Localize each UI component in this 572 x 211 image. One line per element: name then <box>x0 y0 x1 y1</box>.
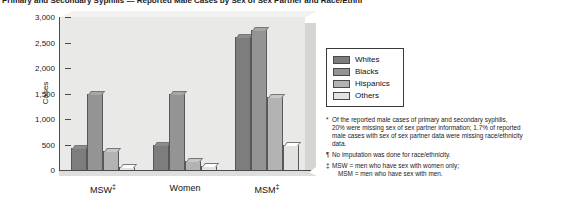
chart-legend: WhitesBlacksHispanicsOthers <box>326 48 404 107</box>
chart-screenshot: Primary and Secondary Syphilis — Reporte… <box>0 0 572 211</box>
bar-others-2 <box>283 145 299 170</box>
footnotes-block: *Of the reported male cases of primary a… <box>326 116 570 178</box>
bar-hispanics-1 <box>185 161 201 170</box>
plot-side-face <box>305 23 316 176</box>
bar-top-face <box>186 158 203 162</box>
bar-top-face <box>268 94 285 98</box>
page-title: Primary and Secondary Syphilis — Reporte… <box>2 0 362 5</box>
footnote-line: data. <box>332 140 570 148</box>
bar-top-face <box>88 91 105 95</box>
bar-blacks-1 <box>169 94 185 171</box>
y-tick-label: 1,000 <box>35 115 55 124</box>
y-tick-label: 2,000 <box>35 64 55 73</box>
y-tick-label: 0 <box>51 166 55 175</box>
legend-item-whites[interactable]: Whites <box>333 54 398 65</box>
legend-label: Hispanics <box>355 79 390 88</box>
legend-label: Others <box>355 91 379 100</box>
bar-whites-0 <box>71 148 87 170</box>
bar-whites-1 <box>153 145 169 170</box>
legend-label: Whites <box>355 55 379 64</box>
x-axis-label-1: Women <box>170 183 201 193</box>
y-tick-label: 500 <box>42 140 55 149</box>
legend-item-others[interactable]: Others <box>333 90 398 101</box>
bar-top-face <box>202 163 219 167</box>
x-axis-label-0: MSW‡ <box>90 183 116 195</box>
footnote-line: MSW = men who have sex with women only; <box>332 162 570 170</box>
bar-whites-2 <box>235 37 251 170</box>
footnote-2: ‡MSW = men who have sex with women only;… <box>326 162 570 178</box>
footnote-text: No imputation was done for race/ethnicit… <box>332 151 570 159</box>
legend-swatch-icon <box>333 80 350 88</box>
legend-label: Blacks <box>355 67 379 76</box>
footnote-line: male cases with sex of sex partner data … <box>332 132 570 140</box>
legend-swatch-icon <box>333 56 350 64</box>
bar-others-0 <box>119 167 135 170</box>
bar-top-face <box>252 27 269 31</box>
y-tick-label: 2,500 <box>35 38 55 47</box>
bar-top-face <box>170 91 187 95</box>
footnote-line: 20% were missing sex of sex partner info… <box>332 124 570 132</box>
bar-hispanics-0 <box>103 151 119 170</box>
y-tick-label: 3,000 <box>35 13 55 22</box>
bar-top-face <box>284 142 301 146</box>
legend-item-blacks[interactable]: Blacks <box>333 66 398 77</box>
x-axis-label-2: MSM‡ <box>255 183 280 195</box>
bar-hispanics-2 <box>267 97 283 170</box>
legend-item-hispanics[interactable]: Hispanics <box>333 78 398 89</box>
footnote-line: Of the reported male cases of primary an… <box>332 116 570 124</box>
footnote-1: ¶No imputation was done for race/ethnici… <box>326 151 570 159</box>
legend-swatch-icon <box>333 92 350 100</box>
y-axis-title: Cases <box>41 82 50 105</box>
legend-swatch-icon <box>333 68 350 76</box>
footnote-text: MSW = men who have sex with women only;M… <box>332 162 570 178</box>
bar-top-face <box>120 164 137 168</box>
bars-layer <box>60 17 306 170</box>
bar-others-1 <box>201 166 217 170</box>
footnote-0: *Of the reported male cases of primary a… <box>326 116 570 148</box>
x-axis-line <box>59 170 311 171</box>
footnote-text: Of the reported male cases of primary an… <box>332 116 570 148</box>
bar-blacks-2 <box>251 30 267 170</box>
bar-blacks-0 <box>87 94 103 171</box>
footnote-line: MSM = men who have sex with men. <box>332 170 570 178</box>
y-tick-mark <box>65 170 71 171</box>
chart-plot-area: 05001,0001,5002,0002,5003,000 Cases MSW‡… <box>47 17 319 185</box>
bar-top-face <box>104 148 121 152</box>
footnote-line: No imputation was done for race/ethnicit… <box>332 151 570 159</box>
